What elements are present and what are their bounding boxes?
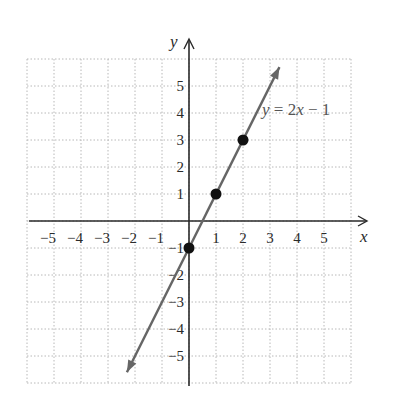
coordinate-plane: −5−4−3−2−11234554321−1−2−3−4−5 x y y = 2…: [0, 0, 393, 395]
x-tick-label: 4: [293, 230, 301, 246]
y-tick-label: −5: [168, 348, 184, 364]
y-axis-label: y: [168, 32, 178, 51]
equation-y: y: [260, 100, 270, 119]
y-tick-label: 1: [177, 186, 185, 202]
x-tick-label: 2: [239, 230, 247, 246]
axes: [29, 39, 367, 386]
y-tick-label: 3: [177, 132, 185, 148]
x-tick-label: −5: [40, 230, 56, 246]
y-tick-label: −3: [168, 294, 184, 310]
x-tick-label: 3: [266, 230, 274, 246]
data-point: [238, 135, 249, 146]
y-tick-label: 5: [177, 78, 185, 94]
y-tick-label: −4: [168, 321, 184, 337]
x-tick-label: −2: [121, 230, 137, 246]
y-tick-label: 4: [177, 105, 185, 121]
equation-mid: = 2: [270, 100, 297, 119]
data-point: [184, 243, 195, 254]
y-tick-label: −1: [168, 240, 184, 256]
line-arrow-up-icon: [270, 67, 279, 80]
x-tick-label: −3: [94, 230, 110, 246]
equation-label: y = 2x − 1: [260, 100, 330, 119]
x-tick-label: −1: [148, 230, 164, 246]
y-tick-label: 2: [177, 159, 185, 175]
x-tick-label: 5: [320, 230, 328, 246]
equation-tail: − 1: [304, 100, 331, 119]
x-axis-label: x: [359, 227, 368, 246]
x-tick-label: 1: [212, 230, 220, 246]
x-tick-label: −4: [67, 230, 83, 246]
data-point: [211, 189, 222, 200]
